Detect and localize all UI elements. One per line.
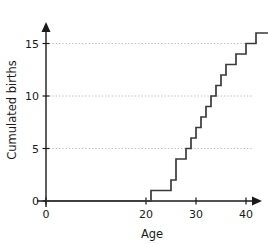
x-tick-label-30: 30 [189, 208, 203, 221]
x-tick-label-0: 0 [43, 208, 50, 221]
y-tick-label-15: 15 [25, 38, 39, 51]
y-axis-arrow-icon [42, 22, 51, 32]
x-axis-title: Age [141, 227, 163, 241]
axes-group [37, 22, 262, 207]
step-chart: 0203040 051015 Age Cumulated births [0, 0, 268, 244]
x-axis-arrow-icon [252, 197, 262, 206]
chart-container: 0203040 051015 Age Cumulated births [0, 0, 268, 244]
gridlines-group [49, 44, 252, 149]
y-tick-label-5: 5 [32, 143, 39, 156]
x-tick-label-40: 40 [239, 208, 253, 221]
y-tick-label-10: 10 [25, 90, 39, 103]
y-tick-label-0: 0 [32, 195, 39, 208]
x-tick-label-20: 20 [139, 208, 153, 221]
y-axis-title: Cumulated births [5, 60, 19, 160]
cumulative-step-curve [46, 33, 268, 201]
